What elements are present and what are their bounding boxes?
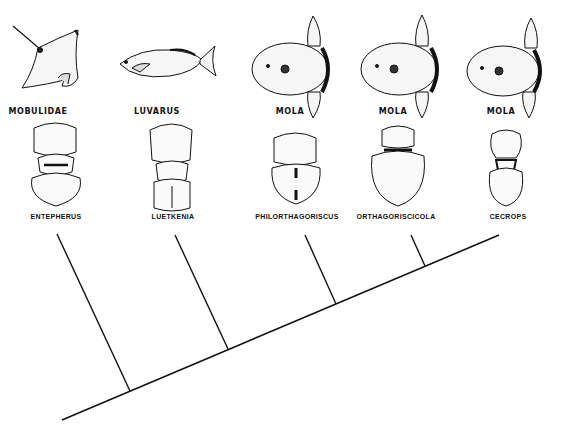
cladogram-tree <box>0 0 563 435</box>
cladogram-figure: MOBULIDAE LUVARUS MOLA MOLA MOLA ENTEPHE… <box>0 0 563 435</box>
tree-branch-entepherus <box>57 234 130 391</box>
tree-root-branch <box>62 235 499 420</box>
tree-branch-orthagoriscicola <box>411 235 425 266</box>
tree-branch-luetkenia <box>175 235 228 349</box>
tree-branch-philorthagoriscus <box>305 235 336 304</box>
